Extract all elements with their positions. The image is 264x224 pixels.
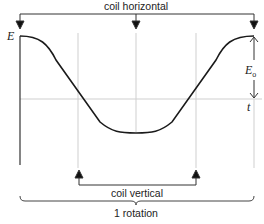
x-axis-label: t [247, 100, 251, 114]
emf-curve [20, 36, 254, 133]
coil-vertical-bracket [75, 170, 200, 185]
arrow-up-icon [192, 170, 200, 178]
arrow-down-icon [16, 21, 24, 29]
rotation-label: 1 rotation [114, 207, 158, 219]
coil-horizontal-bracket [16, 14, 258, 29]
arrow-down-icon [132, 21, 140, 29]
guide-lines [20, 33, 262, 168]
emf-diagram: coil horizontal E Eo t coil vertical 1 r… [0, 0, 264, 224]
arrow-up-icon [75, 170, 83, 178]
arrow-down-icon [250, 21, 258, 29]
coil-horizontal-label: coil horizontal [104, 0, 168, 12]
y-axis-label: E [6, 29, 15, 43]
coil-vertical-label: coil vertical [111, 187, 163, 199]
